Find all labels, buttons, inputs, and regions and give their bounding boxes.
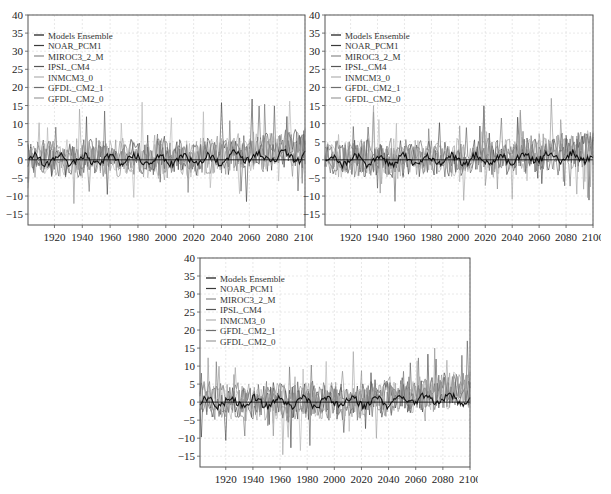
legend-entry: GFDL_CM2_0 <box>48 94 104 104</box>
x-tick-label: 1960 <box>269 473 292 485</box>
x-tick-label: 2020 <box>350 473 373 485</box>
x-tick-label: 2060 <box>528 231 551 243</box>
y-tick-label: 35 <box>309 27 321 39</box>
x-tick-label: 2040 <box>210 231 233 243</box>
legend-entry: INMCM3_0 <box>345 73 391 83</box>
y-tick-label: −10 <box>303 190 321 202</box>
legend-entry: INMCM3_0 <box>220 316 266 326</box>
legend-entry: MIROC3_2_M <box>345 52 401 62</box>
y-tick-label: 10 <box>184 360 196 372</box>
y-tick-label: 20 <box>309 81 321 93</box>
legend-entry: Models Ensemble <box>48 31 113 41</box>
y-tick-label: −5 <box>11 172 23 184</box>
legend-entry: IPSL_CM4 <box>48 62 90 72</box>
x-axis: 1920194019601980200020202040206020802100 <box>215 467 478 485</box>
x-tick-label: 2020 <box>474 231 497 243</box>
legend-entry: INMCM3_0 <box>48 73 94 83</box>
y-tick-label: 5 <box>315 136 321 148</box>
legend-entry: GFDL_CM2_1 <box>345 83 401 93</box>
x-tick-label: 2060 <box>405 473 428 485</box>
x-tick-label: 2000 <box>323 473 346 485</box>
x-axis: 1920194019601980200020202040206020802100 <box>340 225 601 243</box>
x-tick-label: 1980 <box>420 231 443 243</box>
y-tick-label: 0 <box>190 396 196 408</box>
legend-entry: GFDL_CM2_0 <box>345 94 401 104</box>
y-tick-label: −10 <box>6 190 24 202</box>
y-tick-label: 15 <box>184 342 196 354</box>
x-tick-label: 1940 <box>367 231 390 243</box>
x-tick-label: 2040 <box>378 473 401 485</box>
y-tick-label: 30 <box>309 45 321 57</box>
y-tick-label: 20 <box>184 324 196 336</box>
legend-entry: GFDL_CM2_1 <box>220 326 276 336</box>
x-tick-label: 1980 <box>127 231 150 243</box>
y-tick-label: −10 <box>178 432 196 444</box>
x-tick-label: 1940 <box>242 473 265 485</box>
legend-entry: MIROC3_2_M <box>48 52 104 62</box>
chart-panel-bottom: 4035302520151050−5−10−151920194019601980… <box>170 254 478 494</box>
series-lines <box>28 99 305 204</box>
y-tick-label: 30 <box>12 45 24 57</box>
y-tick-label: 35 <box>12 27 24 39</box>
x-tick-label: 2060 <box>238 231 261 243</box>
legend-entry: NOAR_PCM1 <box>345 41 399 51</box>
y-tick-label: 40 <box>184 254 196 264</box>
y-tick-label: −5 <box>308 172 320 184</box>
y-tick-label: −15 <box>6 208 24 220</box>
x-tick-label: 2020 <box>183 231 206 243</box>
x-tick-label: 2100 <box>582 231 601 243</box>
x-tick-label: 2080 <box>555 231 578 243</box>
legend-entry: IPSL_CM4 <box>220 305 262 315</box>
chart-panel-top-left: 4035302520151050−5−10−151920194019601980… <box>0 11 313 253</box>
y-tick-label: 25 <box>12 63 24 75</box>
legend-entry: GFDL_CM2_1 <box>48 83 104 93</box>
y-tick-label: 30 <box>184 288 196 300</box>
legend-entry: Models Ensemble <box>220 274 285 284</box>
x-tick-label: 1960 <box>99 231 122 243</box>
y-tick-label: 0 <box>315 154 321 166</box>
y-tick-label: 35 <box>184 270 196 282</box>
x-tick-label: 1920 <box>215 473 238 485</box>
legend-entry: NOAR_PCM1 <box>220 284 274 294</box>
legend-entry: Models Ensemble <box>345 31 410 41</box>
y-tick-label: 20 <box>12 81 24 93</box>
x-tick-label: 2000 <box>447 231 470 243</box>
series-lines <box>325 98 593 201</box>
y-tick-label: 0 <box>18 154 24 166</box>
y-tick-label: 40 <box>12 11 24 21</box>
y-tick-label: −15 <box>178 450 196 462</box>
x-tick-label: 2040 <box>501 231 524 243</box>
y-tick-label: 25 <box>309 63 321 75</box>
legend-entry: IPSL_CM4 <box>345 62 387 72</box>
y-axis: 4035302520151050−5−10−15 <box>303 11 325 220</box>
series-lines <box>200 341 470 455</box>
legend-entry: NOAR_PCM1 <box>48 41 102 51</box>
y-tick-label: 5 <box>18 136 24 148</box>
legend-entry: MIROC3_2_M <box>220 295 276 305</box>
x-tick-label: 1980 <box>296 473 319 485</box>
x-tick-label: 1960 <box>393 231 416 243</box>
legend: Models EnsembleNOAR_PCM1MIROC3_2_MIPSL_C… <box>34 31 113 104</box>
y-tick-label: 15 <box>309 100 321 112</box>
x-tick-label: 2000 <box>155 231 178 243</box>
x-tick-label: 1920 <box>340 231 363 243</box>
y-axis: 4035302520151050−5−10−15 <box>178 254 200 462</box>
y-tick-label: 15 <box>12 100 24 112</box>
y-tick-label: 25 <box>184 306 196 318</box>
y-tick-label: 5 <box>190 378 196 390</box>
x-tick-label: 1940 <box>71 231 94 243</box>
legend-entry: GFDL_CM2_0 <box>220 337 276 347</box>
y-tick-label: −15 <box>303 208 321 220</box>
y-tick-label: 10 <box>12 118 24 130</box>
x-tick-label: 1920 <box>43 231 66 243</box>
legend: Models EnsembleNOAR_PCM1MIROC3_2_MIPSL_C… <box>331 31 410 104</box>
y-axis: 4035302520151050−5−10−15 <box>6 11 28 220</box>
x-tick-label: 2100 <box>459 473 478 485</box>
x-tick-label: 2080 <box>432 473 455 485</box>
y-tick-label: 40 <box>309 11 321 21</box>
x-tick-label: 2080 <box>266 231 289 243</box>
legend: Models EnsembleNOAR_PCM1MIROC3_2_MIPSL_C… <box>206 274 285 347</box>
chart-panel-top-right: 4035302520151050−5−10−151920194019601980… <box>295 11 601 253</box>
y-tick-label: −5 <box>183 414 195 426</box>
x-axis: 1920194019601980200020202040206020802100 <box>43 225 313 243</box>
